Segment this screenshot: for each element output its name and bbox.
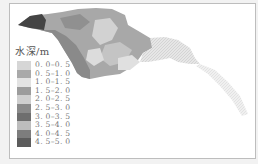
legend-swatch	[17, 138, 31, 147]
legend-swatch	[17, 70, 31, 79]
deep-zone-upstream	[18, 14, 46, 30]
legend-swatch	[17, 87, 31, 96]
legend-item: 4. 5–5. 0	[17, 138, 70, 147]
legend-swatch	[17, 121, 31, 130]
legend-label: 4. 5–5. 0	[35, 138, 70, 147]
legend-swatch	[17, 78, 31, 87]
legend-swatch	[17, 61, 31, 70]
flood-area-tail	[196, 64, 248, 116]
legend: 0. 0–0. 5 0. 5–1. 0 1. 0–1. 5 1. 5–2. 0 …	[17, 61, 70, 147]
legend-swatch	[17, 130, 31, 139]
legend-swatch	[17, 104, 31, 113]
legend-swatch	[17, 113, 31, 122]
legend-title: 水深/m	[15, 43, 50, 58]
legend-swatch	[17, 95, 31, 104]
